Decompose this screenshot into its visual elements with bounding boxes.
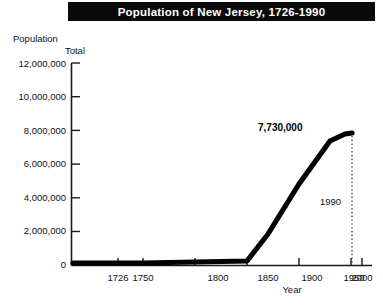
- population-line: [73, 133, 352, 263]
- y-tick-marks: [72, 63, 81, 232]
- axes-group: [72, 63, 373, 266]
- chart-plot-area: [0, 0, 383, 308]
- chart-figure: Population of New Jersey, 1726-1990 Popu…: [0, 0, 383, 308]
